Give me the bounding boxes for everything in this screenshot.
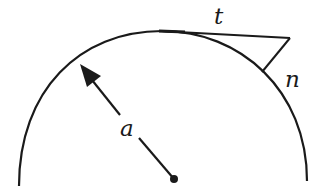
radius-line-lower xyxy=(139,138,174,179)
radius-label: a xyxy=(120,115,134,141)
tangent-contact-thick xyxy=(159,31,185,32)
circle-arc xyxy=(19,31,307,186)
center-point xyxy=(170,175,178,183)
circle-tangent-normal-diagram: t n a xyxy=(0,0,323,188)
radius-line-upper xyxy=(92,80,120,115)
normal-label: n xyxy=(285,66,300,92)
radius-arrowhead-icon xyxy=(80,64,101,87)
tangent-label: t xyxy=(214,3,224,29)
